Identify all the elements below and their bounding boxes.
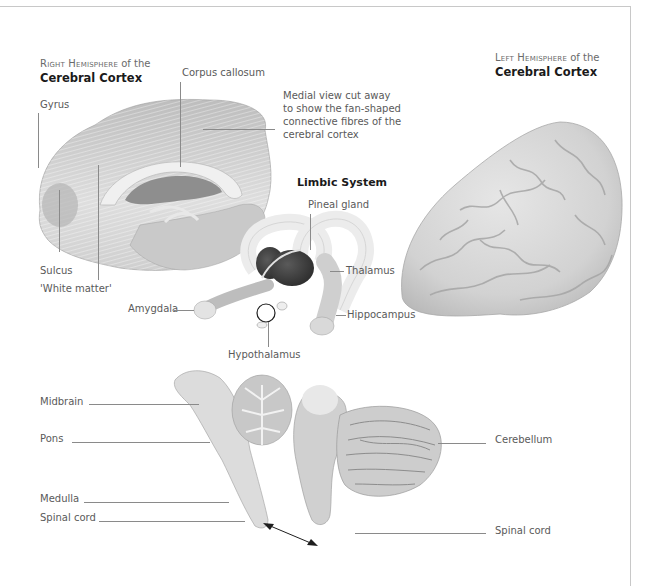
- leader-hypothalamus: [268, 322, 269, 347]
- leader-gyrus: [38, 113, 39, 168]
- left-hemisphere-title-suffix: of the: [567, 52, 599, 63]
- caption-line: to show the fan-shaped: [283, 102, 401, 115]
- label-corpus-callosum: Corpus callosum: [182, 67, 265, 79]
- leader-pineal-gland: [310, 214, 311, 250]
- leader-corpus-callosum: [180, 82, 181, 167]
- label-hypothalamus: Hypothalamus: [228, 349, 301, 361]
- label-amygdala: Amygdala: [128, 303, 178, 315]
- label-cerebellum: Cerebellum: [495, 434, 552, 446]
- label-pineal-gland: Pineal gland: [308, 199, 369, 211]
- label-medulla: Medulla: [40, 493, 79, 505]
- leader-spinal-cord-left: [99, 521, 245, 522]
- label-thalamus: Thalamus: [346, 265, 395, 277]
- limbic-system-title: Limbic System: [297, 176, 387, 190]
- leader-spinal-cord-right: [355, 533, 486, 534]
- left-hemisphere-title: Cerebral Cortex: [495, 65, 597, 79]
- label-midbrain: Midbrain: [40, 396, 83, 408]
- label-gyrus: Gyrus: [40, 99, 69, 111]
- right-hemisphere-title-prefix: Right Hemisphere of the: [40, 58, 150, 70]
- leader-sulcus: [59, 190, 60, 252]
- right-hemisphere-title: Cerebral Cortex: [40, 71, 142, 85]
- label-spinal-cord-right: Spinal cord: [495, 525, 551, 537]
- medial-view-caption: Medial view cut away to show the fan-sha…: [283, 89, 401, 141]
- leader-white-matter: [98, 165, 99, 280]
- label-hippocampus: Hippocampus: [347, 309, 415, 321]
- left-hemisphere-title-prefix: Left Hemisphere of the: [495, 52, 599, 64]
- leader-caption: [203, 129, 275, 130]
- label-pons: Pons: [40, 433, 63, 445]
- leader-medulla: [84, 502, 229, 503]
- right-hemisphere-illustration: [39, 99, 271, 270]
- right-hemisphere-title-caps: Right Hemisphere: [40, 58, 118, 69]
- left-hemisphere-illustration: [402, 122, 623, 316]
- leader-hippocampus: [336, 315, 346, 316]
- leader-thalamus: [330, 271, 344, 272]
- caption-line: Medial view cut away: [283, 89, 401, 102]
- leader-cerebellum: [438, 443, 486, 444]
- leader-pons: [72, 442, 210, 443]
- leader-midbrain: [89, 404, 199, 405]
- label-spinal-cord-left: Spinal cord: [40, 512, 96, 524]
- brainstem-illustration: [174, 371, 441, 546]
- label-sulcus: Sulcus: [40, 265, 73, 277]
- left-hemisphere-title-caps: Left Hemisphere: [495, 52, 567, 63]
- leader-amygdala: [174, 310, 194, 311]
- caption-line: cerebral cortex: [283, 128, 401, 141]
- caption-line: connective fibres of the: [283, 115, 401, 128]
- label-white-matter: 'White matter': [40, 283, 112, 295]
- right-hemisphere-title-suffix: of the: [118, 58, 150, 69]
